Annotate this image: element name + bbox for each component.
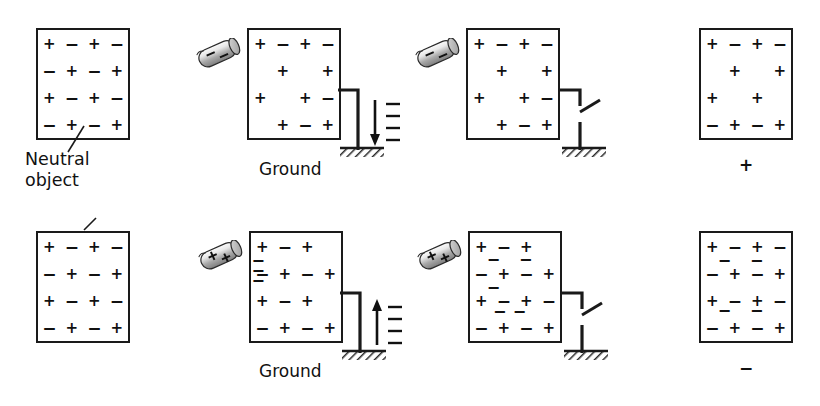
result-sign-bottom: − — [739, 358, 753, 378]
negative-charge: − — [519, 319, 533, 336]
positive-charge: + — [475, 239, 488, 254]
negative-charge: − — [300, 319, 314, 336]
extra-negative-charge: − — [519, 252, 532, 268]
charge-box-bottom-3: +−+−+−++−+−−+−+−−−−− — [468, 231, 562, 343]
extra-negative-charge: − — [493, 304, 506, 320]
ground-wire-switch-bottom — [558, 285, 628, 365]
negative-charge: − — [278, 238, 292, 255]
ground-label-bottom: Ground — [259, 362, 322, 381]
positive-charge: + — [542, 266, 555, 281]
negative-charge: − — [474, 319, 488, 336]
charge-grid: +−+−+−++−+−+−+−−− — [251, 233, 341, 341]
negative-charge: − — [773, 292, 787, 309]
positive-charge: + — [256, 293, 269, 308]
charge-box-bottom-2: +−+−+−++−+−+−+−−− — [249, 231, 343, 343]
positive-charge: + — [773, 320, 786, 335]
positive-charge: + — [278, 266, 291, 281]
extra-negative-charge: − — [513, 304, 526, 320]
positive-charge: + — [323, 320, 336, 335]
extra-negative-charge: − — [251, 273, 264, 289]
positive-charge: + — [278, 320, 291, 335]
induction-diagram: +−+−−+−++−+−−+−+ Neutral object +−+−++++… — [0, 0, 820, 406]
extra-negative-charge: − — [718, 303, 731, 319]
extra-negative-charge: − — [487, 252, 500, 268]
charge-grid: +−+−−+−++−+−−+−+−−−− — [701, 233, 791, 341]
negative-charge: − — [705, 319, 719, 336]
negative-charge: − — [542, 292, 556, 309]
negative-charge: − — [255, 319, 269, 336]
extra-negative-charge: − — [718, 253, 731, 269]
positive-charge: + — [728, 320, 741, 335]
positive-charge: + — [706, 293, 719, 308]
negative-charge: − — [300, 265, 314, 282]
positive-rod-bottom — [194, 240, 248, 270]
extra-negative-charge: − — [750, 253, 763, 269]
positive-charge: + — [323, 266, 336, 281]
positive-charge: + — [773, 266, 786, 281]
positive-charge: + — [542, 320, 555, 335]
positive-charge: + — [706, 239, 719, 254]
charge-grid: +−+−+−++−+−−+−+−−−−− — [470, 233, 560, 341]
positive-charge: + — [301, 239, 314, 254]
negative-charge: − — [278, 292, 292, 309]
positive-charge: + — [301, 293, 314, 308]
positive-charge: + — [497, 320, 510, 335]
extra-negative-charge: − — [487, 280, 500, 296]
ground-wire-bottom — [338, 285, 418, 365]
charge-box-bottom-4: +−+−−+−++−+−−+−+−−−− — [699, 231, 793, 343]
positive-charge: + — [475, 293, 488, 308]
positive-rod-bottom-3 — [413, 240, 467, 270]
negative-charge: − — [750, 319, 764, 336]
negative-charge: − — [773, 238, 787, 255]
extra-negative-charge: − — [750, 303, 763, 319]
